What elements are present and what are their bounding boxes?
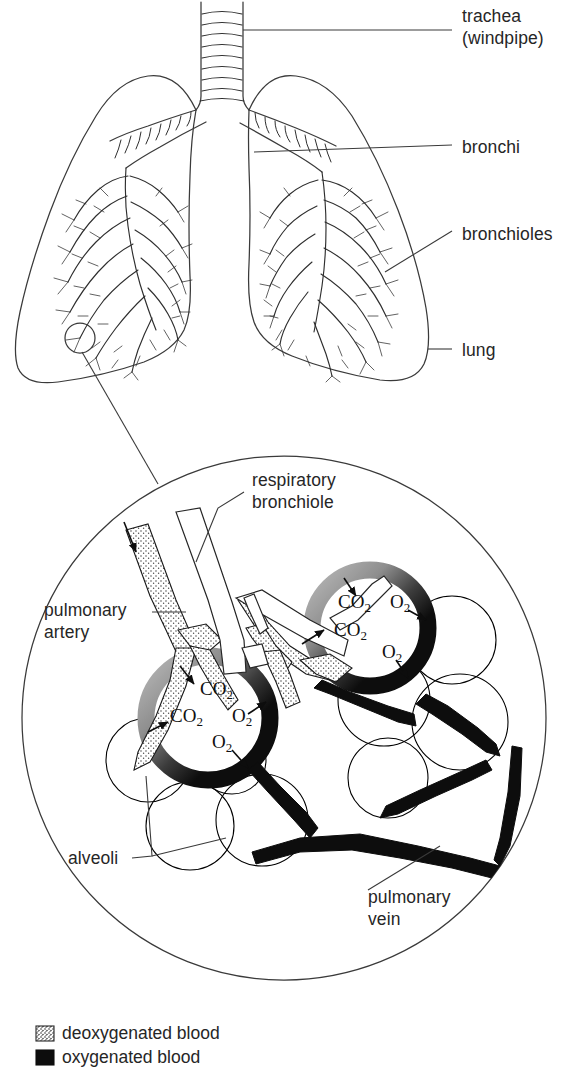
label-respiratory-bronchiole-line2: bronchiole [252,492,334,512]
label-trachea-line1: trachea [462,6,521,26]
label-pulmonary-vein-line1: pulmonary [368,887,451,907]
label-lung: lung [462,340,496,360]
legend: deoxygenated blood oxygenated blood [36,1023,220,1067]
label-respiratory-bronchiole-line1: respiratory [252,470,336,490]
trachea-cartilage-rings [200,12,244,102]
respiratory-diagram-page: trachea (windpipe) bronchi bronchioles l… [0,0,562,1074]
legend-swatch-oxygenated [36,1050,54,1065]
legend-label-deoxygenated: deoxygenated blood [62,1023,220,1043]
right-lung-outline [249,76,429,381]
label-pulmonary-vein-line2: vein [368,909,401,929]
lung-overview-drawing [15,2,452,484]
magnification-connector-line [82,352,158,484]
leader-alveoli-a [132,776,152,858]
label-trachea-line2: (windpipe) [462,28,544,48]
label-bronchioles: bronchioles [462,224,553,244]
leader-bronchi [254,145,452,152]
respiratory-figure: trachea (windpipe) bronchi bronchioles l… [0,0,562,1074]
vein-outflow-arrow [516,884,534,900]
alveoli-inset [22,456,546,980]
left-bronchial-tree [54,168,192,380]
trachea-shape [196,2,249,110]
inset-circle-outline [22,456,546,980]
legend-label-oxygenated: oxygenated blood [62,1047,200,1067]
legend-swatch-deoxygenated [36,1026,54,1041]
label-pulmonary-artery-line2: artery [44,622,89,642]
label-alveoli: alveoli [68,848,118,868]
pulmonary-vein-vessel [248,680,524,890]
label-bronchi: bronchi [462,137,520,157]
right-bronchus-shape [240,110,336,172]
leader-bronchioles [385,231,452,272]
leader-alveoli-b [152,838,226,856]
label-pulmonary-artery-line1: pulmonary [44,600,127,620]
